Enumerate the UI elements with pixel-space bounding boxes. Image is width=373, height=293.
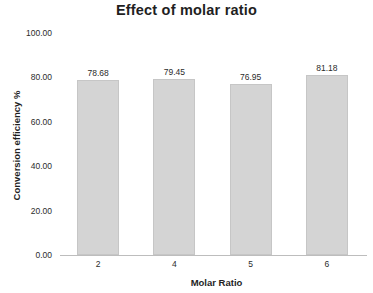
y-tick-label: 80.00 <box>6 72 52 82</box>
bar-value-label: 78.68 <box>87 68 108 78</box>
x-axis-line <box>60 255 367 256</box>
x-tick-label: 2 <box>96 259 101 269</box>
chart-title: Effect of molar ratio <box>0 2 373 18</box>
bar-value-label: 79.45 <box>164 67 185 77</box>
y-tick-label: 20.00 <box>6 206 52 216</box>
y-tick-label: 60.00 <box>6 117 52 127</box>
y-tick-label: 40.00 <box>6 161 52 171</box>
bar <box>306 75 348 255</box>
y-tick-label: 100.00 <box>6 28 52 38</box>
bar <box>77 80 119 255</box>
bar-value-label: 81.18 <box>316 63 337 73</box>
y-tick-label: 0.00 <box>6 250 52 260</box>
x-tick-label: 4 <box>172 259 177 269</box>
x-tick-label: 5 <box>248 259 253 269</box>
bar-value-label: 76.95 <box>240 72 261 82</box>
bar <box>230 84 272 255</box>
bar-chart: Effect of molar ratio Conversion efficie… <box>0 0 373 293</box>
x-tick-label: 6 <box>325 259 330 269</box>
x-axis-title: Molar Ratio <box>60 277 373 288</box>
bar <box>153 79 195 255</box>
plot-area: 100.0080.0060.0040.0020.000.0078.6879.45… <box>60 33 365 255</box>
